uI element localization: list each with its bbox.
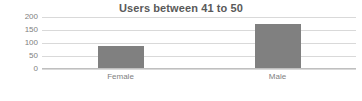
bar[interactable] <box>255 24 301 70</box>
y-axis-tick-label: 100 <box>0 39 38 47</box>
y-axis: 050100150200 <box>0 17 38 69</box>
y-axis-tick-label: 0 <box>0 65 38 73</box>
y-axis-tick-label: 50 <box>0 52 38 60</box>
bar-slot <box>42 17 199 69</box>
bar-slot <box>199 17 356 69</box>
bar-series <box>42 17 356 69</box>
x-axis-tick-label: Female <box>107 72 134 82</box>
bar[interactable] <box>98 46 144 69</box>
bar-chart: Users between 41 to 50 050100150200 Fema… <box>0 0 362 101</box>
chart-title: Users between 41 to 50 <box>0 2 362 14</box>
axis-baseline <box>42 68 356 69</box>
y-axis-tick-label: 200 <box>0 13 38 21</box>
plot-area <box>42 17 356 69</box>
x-axis-tick-label: Male <box>269 72 286 82</box>
gridline <box>42 69 356 70</box>
y-axis-tick-label: 150 <box>0 26 38 34</box>
x-axis: FemaleMale <box>42 72 356 86</box>
